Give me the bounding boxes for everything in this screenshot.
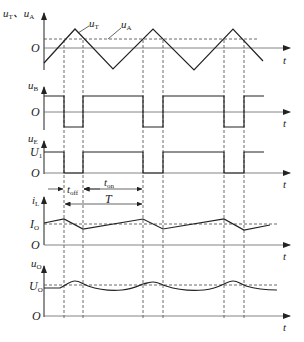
panel-uT-uA	[44, 13, 290, 70]
time-label-panel2: t	[283, 118, 286, 129]
panel-uB	[44, 87, 290, 130]
switch-time-guides	[64, 40, 244, 318]
origin-label-panel4: O	[31, 239, 40, 251]
interval-label-ton: ton	[104, 177, 114, 190]
axis-label-uO: uO	[31, 258, 42, 271]
time-label-panel3: t	[283, 179, 286, 190]
axis-label-uB: uB	[28, 80, 38, 93]
origin-label-panel2: O	[31, 106, 40, 118]
level-label-UO: UO	[29, 280, 43, 294]
level-label-U1: U1	[30, 146, 42, 160]
panel-uE	[44, 141, 290, 204]
curve-label-uA: uA	[121, 19, 132, 32]
origin-label-panel3: O	[31, 167, 40, 179]
panel-uO	[44, 266, 290, 317]
axis-label-uT-uA: uT、uA	[3, 8, 34, 21]
level-label-IO: IO	[30, 218, 39, 232]
interval-label-toff: toff	[67, 184, 78, 197]
time-label-panel4: t	[283, 251, 286, 262]
timing-diagram: uT、uA O uT uA t uB O t uE U1 O t toff to…	[0, 0, 304, 342]
interval-label-period: T	[105, 193, 112, 205]
origin-label-panel5: O	[32, 310, 41, 322]
axis-label-iL: iL	[32, 195, 39, 208]
curve-label-uT: uT	[89, 18, 99, 31]
origin-label-panel1: O	[31, 42, 40, 54]
time-label-panel1: t	[283, 55, 286, 66]
waveform-plot	[0, 0, 304, 342]
time-label-panel5: t	[283, 322, 286, 333]
